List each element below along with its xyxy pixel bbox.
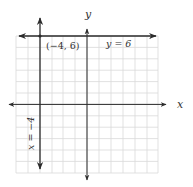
hline-label: y = 6: [105, 38, 131, 49]
vline-label: x = −4: [25, 117, 36, 150]
point-label: (−4, 6): [46, 40, 80, 51]
y-axis-label: y: [84, 8, 92, 21]
point-neg4-6: [38, 34, 41, 37]
x-axis-label: x: [177, 98, 184, 111]
coordinate-plane: y x (−4, 6) y = 6 x = −4: [0, 0, 193, 187]
